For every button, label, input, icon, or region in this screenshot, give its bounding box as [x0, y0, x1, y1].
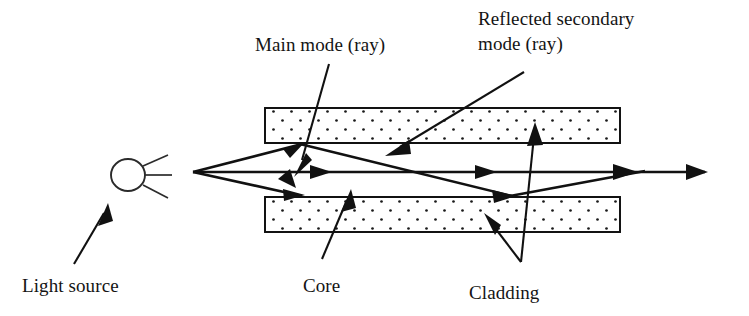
leader-light-source	[74, 213, 104, 264]
light-source-icon	[111, 155, 172, 198]
label-main-mode: Main mode (ray)	[255, 34, 385, 56]
fiber-optic-diagram: Main mode (ray) Reflected secondary mode…	[0, 0, 749, 316]
cladding-top	[265, 108, 620, 143]
label-reflected-secondary-line2: mode (ray)	[478, 33, 563, 55]
leader-lines	[74, 64, 543, 264]
label-cladding: Cladding	[469, 282, 540, 303]
diagram-canvas: Main mode (ray) Reflected secondary mode…	[0, 0, 749, 316]
cladding-bottom	[265, 197, 620, 232]
label-light-source: Light source	[22, 275, 119, 296]
label-core: Core	[303, 275, 340, 296]
label-reflected-secondary-line1: Reflected secondary	[478, 8, 635, 29]
